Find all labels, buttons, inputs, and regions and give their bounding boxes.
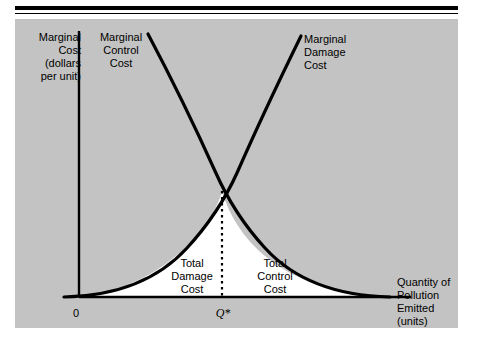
pollution-cost-chart: [15, 19, 458, 328]
x-axis-label: Quantity of Pollution Emitted (units): [397, 276, 467, 328]
total-cost-white-region: [64, 192, 390, 297]
y-axis-label: Marginal Cost (dollars per unit): [23, 31, 81, 83]
marginal-control-cost-label: Marginal Control Cost: [91, 31, 151, 70]
figure-panel: Marginal Cost (dollars per unit) Margina…: [15, 19, 458, 328]
top-rule-thin: [15, 13, 458, 14]
total-damage-cost-label: Total Damage Cost: [157, 257, 227, 296]
optimum-quantity-label: Q*: [211, 307, 235, 320]
total-control-cost-label: Total Control Cost: [240, 257, 310, 296]
top-rule-thick: [15, 6, 458, 10]
origin-label: 0: [69, 307, 83, 320]
marginal-damage-cost-label: Marginal Damage Cost: [304, 33, 374, 72]
